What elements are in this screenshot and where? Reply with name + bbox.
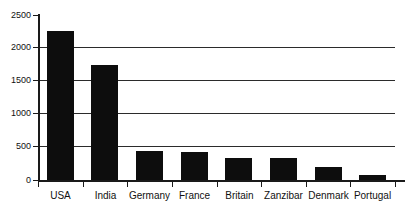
x-tick-5	[261, 182, 262, 187]
y-axis-label-0: 0	[0, 176, 31, 185]
x-axis-label-france-text: France	[179, 190, 210, 201]
x-tick-2	[127, 182, 128, 187]
y-axis-label-1500-text: 1500	[11, 75, 31, 85]
x-tick-4	[217, 182, 218, 187]
bar-germany	[136, 151, 163, 180]
bar-zanzibar	[270, 158, 297, 180]
bar-britain	[225, 158, 252, 180]
x-tick-6	[306, 182, 307, 187]
y-axis-label-1000-text: 1000	[11, 108, 31, 118]
x-axis-label-britain-text: Britain	[225, 190, 253, 201]
x-axis-label-zanzibar-text: Zanzibar	[264, 190, 303, 201]
x-tick-7	[350, 182, 351, 187]
bar-chart: 2500 2000 1500 1000 500 0 USA India Germ…	[0, 0, 411, 212]
x-axis-label-germany-text: Germany	[129, 190, 170, 201]
x-axis-label-india-text: India	[95, 190, 117, 201]
x-axis-label-france: France	[172, 191, 217, 201]
x-axis-label-portugal: Portugal	[350, 191, 395, 201]
y-axis-label-2500-text: 2500	[11, 10, 31, 20]
x-axis-label-usa-text: USA	[50, 190, 71, 201]
y-axis-label-500-text: 500	[16, 141, 31, 151]
gridline-2000	[38, 47, 395, 48]
x-tick-8	[395, 182, 396, 187]
y-axis-label-2000: 2000	[0, 43, 31, 52]
y-axis-line	[38, 14, 40, 181]
y-axis-label-1000: 1000	[0, 109, 31, 118]
x-axis-label-usa: USA	[38, 191, 83, 201]
bar-india	[91, 65, 118, 180]
y-tick-2000	[33, 47, 40, 48]
x-axis-label-denmark: Denmark	[306, 191, 351, 201]
bar-usa	[47, 31, 74, 180]
y-tick-500	[33, 146, 40, 147]
y-tick-2500	[33, 15, 40, 16]
bar-france	[181, 152, 208, 180]
bar-denmark	[315, 167, 342, 180]
x-tick-1	[83, 182, 84, 187]
y-axis-label-2000-text: 2000	[11, 42, 31, 52]
y-axis-label-1500: 1500	[0, 76, 31, 85]
y-tick-1000	[33, 113, 40, 114]
x-axis-label-britain: Britain	[217, 191, 262, 201]
x-axis-label-zanzibar: Zanzibar	[261, 191, 306, 201]
x-axis-label-denmark-text: Denmark	[308, 190, 349, 201]
x-axis-label-germany: Germany	[127, 191, 172, 201]
y-axis-label-0-text: 0	[26, 175, 31, 185]
y-tick-1500	[33, 80, 40, 81]
y-axis-label-2500: 2500	[0, 11, 31, 20]
x-axis-label-india: India	[83, 191, 128, 201]
y-axis-label-500: 500	[0, 142, 31, 151]
x-tick-3	[172, 182, 173, 187]
x-axis-label-portugal-text: Portugal	[354, 190, 391, 201]
x-tick-0	[38, 182, 39, 187]
